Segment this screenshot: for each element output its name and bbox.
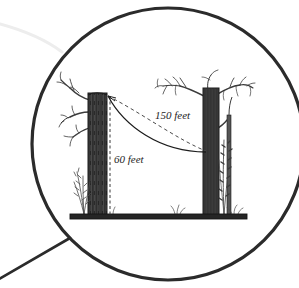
left-tree-trunk xyxy=(88,93,107,216)
height-label: 60 feet xyxy=(114,153,145,165)
left-tree xyxy=(57,72,107,216)
illustration-canvas: 150 feet 60 feet xyxy=(0,0,299,288)
magnifier-handle xyxy=(0,238,70,283)
left-tree-branches xyxy=(57,72,90,146)
tree-diagram-svg: 150 feet 60 feet xyxy=(0,0,299,288)
span-dashed-curve xyxy=(108,96,206,151)
right-tree xyxy=(155,70,255,216)
cable-curve xyxy=(108,96,206,152)
magnifying-lens xyxy=(32,8,299,280)
lens-glint xyxy=(0,24,62,52)
span-label: 150 feet xyxy=(155,109,191,121)
ground-line xyxy=(70,214,247,219)
